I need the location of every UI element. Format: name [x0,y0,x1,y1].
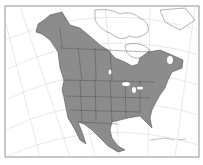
range-map [0,0,203,165]
